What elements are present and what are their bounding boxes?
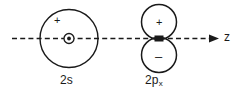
orbital-2s-nucleus-dot-icon — [67, 37, 71, 41]
orbital-2px-lower-lobe-sign-minus: – — [155, 50, 162, 63]
orbital-2s-lobe-sign-plus: + — [54, 15, 60, 26]
orbital-2s-label-main: 2s — [60, 73, 73, 87]
orbital-2s-label: 2s — [60, 73, 73, 88]
orbital-2px-nucleus-marker — [155, 36, 164, 42]
orbital-2px-label-main: 2p — [145, 73, 159, 87]
z-axis-arrowhead-icon — [209, 35, 219, 43]
orbital-2px-label: 2px — [145, 73, 163, 88]
diagram-canvas — [0, 0, 236, 96]
orbital-2px-upper-lobe-sign-plus: + — [156, 17, 162, 28]
orbital-diagram-figure: + + – 2s 2px z — [0, 0, 236, 96]
orbital-2px-label-subscript: x — [159, 79, 163, 88]
z-axis-label: z — [224, 30, 230, 44]
